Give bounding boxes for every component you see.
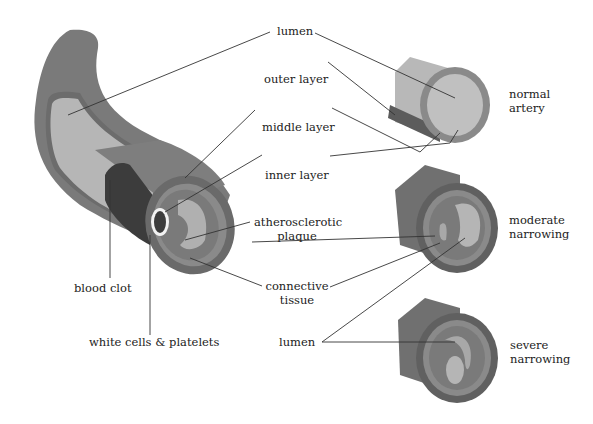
artery-diagram: lumen outer layer middle layer inner lay… (0, 0, 593, 424)
label-moderate-narrowing: moderate narrowing (509, 213, 569, 241)
label-lumen-bottom: lumen (279, 335, 315, 349)
normal-artery (388, 57, 490, 143)
label-lumen-top: lumen (277, 24, 313, 38)
diagram-illustration (0, 0, 593, 424)
label-middle-layer: middle layer (262, 120, 335, 134)
label-connective-tissue: connective tissue (262, 279, 332, 307)
label-outer-layer: outer layer (264, 72, 328, 86)
moderate-artery (395, 165, 498, 273)
label-white-cells-platelets: white cells & platelets (89, 335, 219, 349)
curved-artery (34, 30, 248, 287)
label-blood-clot: blood clot (74, 281, 132, 295)
label-plaque: atherosclerotic plaque (254, 215, 340, 243)
label-normal-artery: normal artery (509, 87, 550, 115)
label-severe-narrowing: severe narrowing (510, 338, 570, 366)
severe-artery (398, 298, 498, 403)
label-inner-layer: inner layer (265, 168, 329, 182)
